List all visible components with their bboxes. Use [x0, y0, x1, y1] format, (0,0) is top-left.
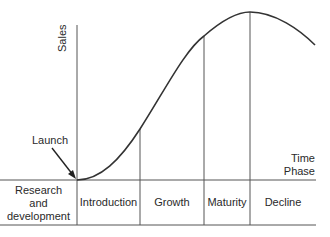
rd-line2: and [0, 197, 77, 210]
phase-maturity: Maturity [204, 196, 250, 209]
y-axis-label: Sales [56, 24, 69, 52]
time-label: Time [270, 152, 315, 165]
phase-label: Phase [270, 165, 315, 178]
time-phase-label: Time Phase [270, 152, 315, 178]
phase-decline: Decline [250, 196, 316, 209]
phase-introduction: Introduction [77, 196, 140, 209]
phase-growth: Growth [140, 196, 204, 209]
launch-arrow-head [68, 170, 76, 179]
launch-arrow-line [52, 148, 73, 175]
rd-line3: development [0, 210, 77, 223]
phase-research-development: Research and development [0, 184, 77, 223]
rd-line1: Research [0, 184, 77, 197]
launch-label: Launch [32, 134, 68, 147]
product-life-cycle-diagram: Sales Launch Time Phase Research and dev… [0, 0, 330, 237]
